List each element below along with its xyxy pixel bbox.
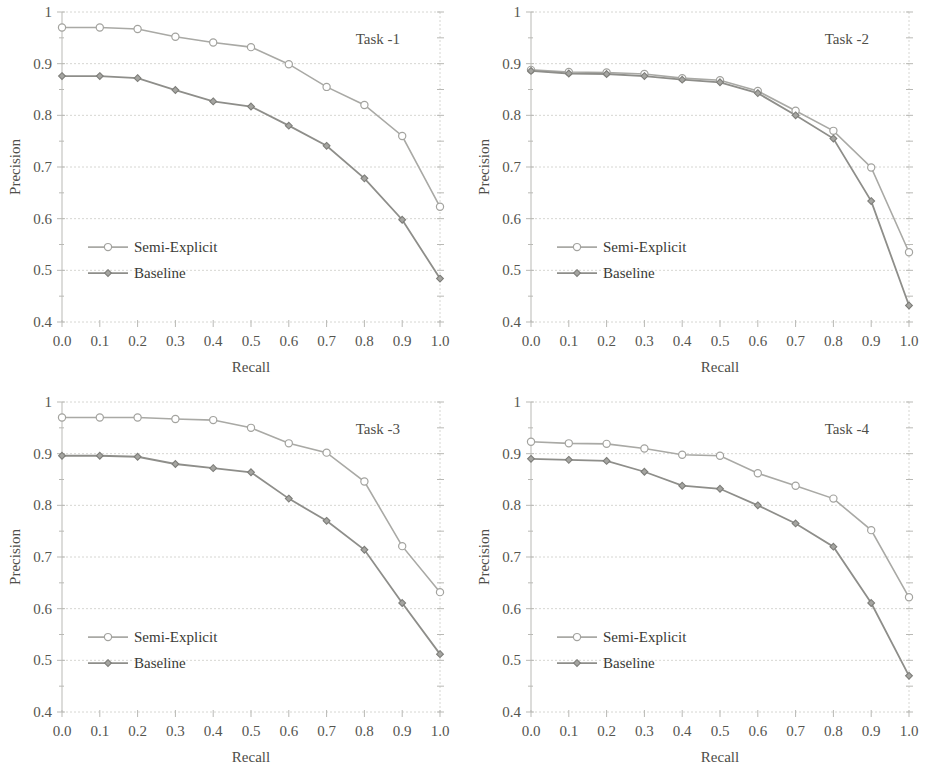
y-axis-tick-label: 0.5 (502, 262, 521, 278)
data-point-baseline (679, 482, 686, 489)
x-axis-title: Recall (701, 749, 739, 765)
y-axis-tick-label: 0.8 (33, 107, 52, 123)
data-point-baseline (172, 87, 179, 94)
data-point-semi-explicit (565, 440, 572, 447)
y-axis-tick-label: 1 (514, 394, 522, 410)
chart-panel-4: 0.40.50.60.70.80.910.00.10.20.30.40.50.6… (469, 390, 938, 780)
figure-grid: 0.40.50.60.70.80.910.00.10.20.30.40.50.6… (0, 0, 938, 781)
y-axis-tick-label: 0.6 (33, 601, 52, 617)
x-axis-tick-label: 0.6 (279, 333, 298, 349)
x-axis-tick-label: 0.5 (711, 333, 730, 349)
y-axis-tick-label: 1 (45, 394, 53, 410)
x-axis-tick-label: 0.1 (90, 333, 109, 349)
x-axis-tick-label: 1.0 (900, 333, 919, 349)
x-axis-tick-label: 1.0 (900, 723, 919, 739)
data-point-semi-explicit (134, 414, 141, 421)
data-point-semi-explicit (104, 243, 111, 250)
task-label: Task -1 (356, 31, 400, 47)
chart-panel-2: 0.40.50.60.70.80.910.00.10.20.30.40.50.6… (469, 0, 938, 390)
y-axis-tick-label: 0.4 (502, 704, 521, 720)
y-axis-tick-label: 0.5 (502, 652, 521, 668)
y-axis-tick-label: 1 (514, 4, 522, 20)
data-point-semi-explicit (134, 25, 141, 32)
data-point-semi-explicit (323, 449, 330, 456)
x-axis-tick-label: 0.9 (393, 333, 412, 349)
data-point-semi-explicit (247, 424, 254, 431)
data-point-semi-explicit (905, 249, 912, 256)
x-axis-tick-label: 0.4 (204, 723, 223, 739)
data-point-semi-explicit (210, 39, 217, 46)
x-axis-tick-label: 0.0 (522, 333, 541, 349)
x-axis-tick-label: 0.1 (559, 723, 578, 739)
data-point-baseline (717, 485, 724, 492)
data-point-semi-explicit (603, 440, 610, 447)
x-axis-tick-label: 0.5 (242, 723, 261, 739)
data-point-baseline (603, 458, 610, 465)
x-axis-tick-label: 0.1 (559, 333, 578, 349)
data-point-baseline (210, 465, 217, 472)
x-axis-tick-label: 0.6 (748, 723, 767, 739)
legend-label-semi-explicit: Semi-Explicit (134, 629, 218, 645)
data-point-semi-explicit (285, 61, 292, 68)
y-axis-tick-label: 0.7 (33, 159, 52, 175)
data-point-semi-explicit (868, 527, 875, 534)
y-axis-tick-label: 0.9 (33, 56, 52, 72)
data-point-semi-explicit (104, 633, 111, 640)
data-point-semi-explicit (641, 445, 648, 452)
y-axis-tick-label: 0.8 (502, 107, 521, 123)
data-point-baseline (134, 453, 141, 460)
x-axis-title: Recall (232, 359, 270, 375)
y-axis-tick-label: 0.7 (502, 159, 521, 175)
legend-label-baseline: Baseline (603, 265, 655, 281)
data-point-semi-explicit (210, 416, 217, 423)
data-point-semi-explicit (58, 24, 65, 31)
x-axis-tick-label: 0.0 (53, 333, 72, 349)
legend-label-baseline: Baseline (134, 265, 186, 281)
y-axis-tick-label: 0.4 (33, 314, 52, 330)
y-axis-tick-label: 0.6 (502, 211, 521, 227)
y-axis-tick-label: 0.8 (33, 497, 52, 513)
x-axis-tick-label: 0.6 (279, 723, 298, 739)
data-point-semi-explicit (96, 414, 103, 421)
data-point-semi-explicit (323, 83, 330, 90)
x-axis-tick-label: 0.7 (317, 723, 336, 739)
x-axis-tick-label: 0.0 (53, 723, 72, 739)
data-point-semi-explicit (172, 33, 179, 40)
x-axis-tick-label: 0.7 (317, 333, 336, 349)
x-axis-tick-label: 0.8 (355, 333, 374, 349)
legend-label-baseline: Baseline (134, 655, 186, 671)
x-axis-title: Recall (232, 749, 270, 765)
data-point-semi-explicit (573, 243, 580, 250)
y-axis-tick-label: 0.6 (502, 601, 521, 617)
data-point-semi-explicit (573, 633, 580, 640)
x-axis-tick-label: 0.9 (862, 723, 881, 739)
data-point-semi-explicit (436, 589, 443, 596)
data-point-semi-explicit (679, 451, 686, 458)
y-axis-title: Precision (7, 139, 23, 195)
x-axis-tick-label: 0.0 (522, 723, 541, 739)
data-point-baseline (59, 73, 66, 80)
task-label: Task -4 (825, 421, 870, 437)
data-point-semi-explicit (754, 470, 761, 477)
x-axis-tick-label: 0.8 (355, 723, 374, 739)
chart-panel-3: 0.40.50.60.70.80.910.00.10.20.30.40.50.6… (0, 390, 469, 780)
data-point-semi-explicit (905, 594, 912, 601)
x-axis-tick-label: 0.3 (635, 333, 654, 349)
x-axis-tick-label: 0.2 (597, 723, 616, 739)
chart-panel-1: 0.40.50.60.70.80.910.00.10.20.30.40.50.6… (0, 0, 469, 390)
data-point-baseline (248, 103, 255, 110)
y-axis-tick-label: 0.7 (33, 549, 52, 565)
data-point-semi-explicit (830, 127, 837, 134)
y-axis-tick-label: 0.9 (502, 56, 521, 72)
x-axis-tick-label: 0.4 (673, 723, 692, 739)
data-point-baseline (754, 502, 761, 509)
x-axis-tick-label: 0.1 (90, 723, 109, 739)
y-axis-tick-label: 0.4 (33, 704, 52, 720)
data-point-semi-explicit (716, 452, 723, 459)
y-axis-tick-label: 0.5 (33, 262, 52, 278)
x-axis-tick-label: 0.3 (635, 723, 654, 739)
x-axis-tick-label: 0.5 (711, 723, 730, 739)
x-axis-tick-label: 0.5 (242, 333, 261, 349)
data-point-semi-explicit (172, 415, 179, 422)
y-axis-tick-label: 0.7 (502, 549, 521, 565)
